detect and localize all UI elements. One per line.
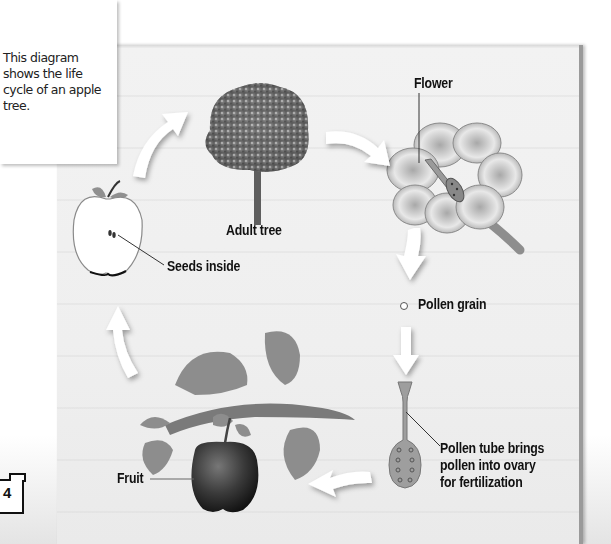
arrow-seed-to-tree [133,112,188,178]
cycle-arrows [0,0,611,544]
